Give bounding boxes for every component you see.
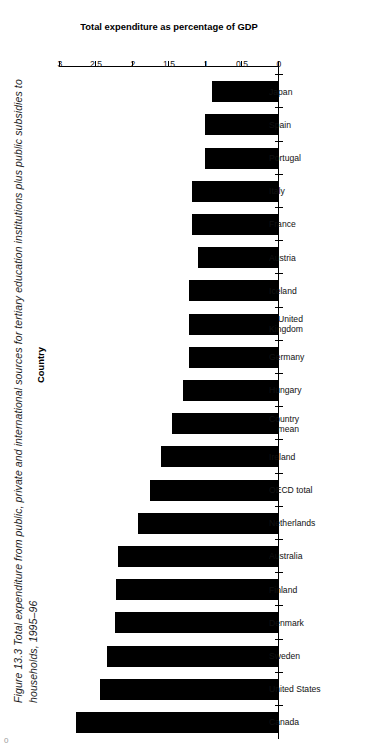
category-tick	[275, 74, 283, 75]
category-tick	[275, 240, 283, 241]
category-label: Netherlands	[269, 518, 315, 528]
bar	[198, 247, 279, 268]
bar-fill	[183, 380, 279, 401]
value-tick-label: 1.5	[157, 59, 183, 69]
category-tick	[275, 340, 283, 341]
bar	[100, 679, 279, 700]
bar	[192, 181, 279, 202]
category-tick	[275, 406, 283, 407]
bar-fill	[115, 612, 279, 633]
category-label: Hungary	[269, 386, 301, 396]
value-tick-label: 0.5	[230, 59, 256, 69]
category-tick	[275, 639, 283, 640]
category-label: Canada	[269, 718, 299, 728]
category-tick	[275, 539, 283, 540]
category-label: United States	[269, 684, 321, 694]
bar	[205, 114, 279, 135]
category-label: Country mean	[269, 414, 299, 434]
category-tick	[275, 174, 283, 175]
bar	[161, 446, 279, 467]
chart-canvas: CanadaUnited StatesSwedenDenmarkFinlandA…	[0, 0, 374, 747]
category-label: Finland	[269, 585, 297, 595]
category-tick	[275, 207, 283, 208]
category-tick	[275, 373, 283, 374]
bar-series: CanadaUnited StatesSwedenDenmarkFinlandA…	[60, 67, 279, 739]
category-tick	[275, 605, 283, 606]
bar-fill	[76, 712, 279, 733]
category-label: Austria	[269, 253, 296, 263]
value-tick-label: 1	[193, 59, 219, 69]
category-label: Sweden	[269, 651, 300, 661]
bar-fill	[161, 446, 279, 467]
category-tick	[275, 506, 283, 507]
category-tick	[275, 439, 283, 440]
category-tick	[275, 473, 283, 474]
bar	[205, 148, 279, 169]
bar-fill	[150, 480, 279, 501]
bar	[189, 314, 279, 335]
bar	[76, 712, 279, 733]
category-label: United Kingdom	[269, 314, 303, 334]
bar	[115, 612, 279, 633]
bar-fill	[205, 148, 279, 169]
value-axis-title: Total expenditure as percentage of GDP	[54, 21, 284, 35]
category-axis-title: Country	[35, 320, 49, 410]
bar	[150, 480, 279, 501]
bar	[192, 214, 279, 235]
plot-area: CanadaUnited StatesSwedenDenmarkFinlandA…	[60, 67, 279, 739]
value-tick-label: 2.5	[84, 59, 110, 69]
category-label: Spain	[269, 120, 291, 130]
bar-fill	[189, 347, 279, 368]
category-label: Portugal	[269, 153, 301, 163]
category-label: Denmark	[269, 618, 304, 628]
bar	[116, 579, 279, 600]
category-tick	[275, 307, 283, 308]
bar-fill	[100, 679, 279, 700]
bar-fill	[118, 546, 279, 567]
bar-fill	[189, 314, 279, 335]
bar-fill	[192, 214, 279, 235]
bar	[183, 380, 279, 401]
category-tick	[275, 672, 283, 673]
category-tick	[275, 107, 283, 108]
bar	[118, 546, 279, 567]
bar	[172, 413, 279, 434]
bar-fill	[116, 579, 279, 600]
value-tick-label: 0	[266, 59, 292, 69]
bar	[189, 347, 279, 368]
category-tick	[275, 572, 283, 573]
value-tick-label: 3	[47, 59, 73, 69]
bar-fill	[205, 114, 279, 135]
bar-fill	[189, 280, 279, 301]
category-label: France	[269, 220, 296, 230]
bar-fill	[138, 513, 279, 534]
bar	[107, 646, 279, 667]
bar-fill	[107, 646, 279, 667]
page-number: 0	[4, 736, 8, 745]
category-tick	[275, 273, 283, 274]
bar-fill	[192, 181, 279, 202]
category-label: Germany	[269, 352, 304, 362]
category-tick	[275, 141, 283, 142]
category-tick	[275, 705, 283, 706]
category-label: Japan	[269, 87, 292, 97]
bar	[189, 280, 279, 301]
bar	[138, 513, 279, 534]
bar-fill	[172, 413, 279, 434]
category-label: OECD total	[269, 485, 312, 495]
bar-fill	[198, 247, 279, 268]
category-label: Ireland	[269, 452, 295, 462]
category-label: Iceland	[269, 286, 297, 296]
value-tick-label: 2	[120, 59, 146, 69]
category-label: Italy	[269, 186, 285, 196]
category-label: Australia	[269, 552, 302, 562]
